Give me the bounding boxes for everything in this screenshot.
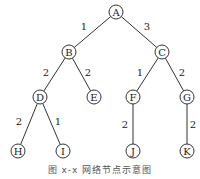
node-K: K bbox=[180, 144, 194, 158]
figure-caption: 图 x-x 网络节点示意图 bbox=[0, 163, 200, 176]
node-J: J bbox=[126, 144, 140, 158]
edge-weight-C-G: 2 bbox=[179, 67, 185, 78]
edge-weight-G-K: 2 bbox=[190, 119, 196, 130]
node-label: B bbox=[65, 47, 72, 58]
edge-A-B bbox=[74, 17, 110, 48]
node-label: K bbox=[183, 146, 191, 157]
node-label: I bbox=[61, 146, 65, 157]
node-label: G bbox=[183, 92, 191, 103]
edge-weight-A-B: 1 bbox=[81, 21, 87, 32]
node-G: G bbox=[180, 90, 194, 104]
node-D: D bbox=[33, 90, 47, 104]
node-I: I bbox=[56, 144, 70, 158]
edge-weight-F-J: 2 bbox=[122, 119, 128, 130]
edge-A-C bbox=[121, 17, 156, 48]
node-label: C bbox=[158, 47, 166, 58]
node-label: A bbox=[111, 7, 120, 18]
edge-weight-B-D: 2 bbox=[43, 67, 49, 78]
edge-weight-C-F: 1 bbox=[137, 67, 143, 78]
node-F: F bbox=[126, 90, 140, 104]
edge-weight-A-C: 3 bbox=[144, 21, 150, 32]
edge-weights: 1322122122 bbox=[16, 21, 196, 130]
node-E: E bbox=[87, 90, 101, 104]
node-B: B bbox=[62, 45, 76, 59]
node-C: C bbox=[155, 45, 169, 59]
edges bbox=[21, 17, 187, 145]
node-label: D bbox=[36, 92, 44, 103]
node-H: H bbox=[11, 144, 25, 158]
node-label: F bbox=[130, 92, 137, 103]
edge-weight-D-I: 1 bbox=[55, 116, 61, 127]
edge-weight-D-H: 2 bbox=[16, 116, 22, 127]
edge-weight-B-E: 2 bbox=[85, 67, 91, 78]
nodes: ABCDEFGHIJK bbox=[11, 5, 194, 158]
node-label: E bbox=[90, 92, 97, 103]
node-label: J bbox=[130, 146, 135, 157]
node-label: H bbox=[14, 146, 23, 157]
node-A: A bbox=[109, 5, 123, 19]
edge-D-H bbox=[21, 103, 38, 144]
tree-diagram: 1322122122 ABCDEFGHIJK bbox=[0, 0, 200, 179]
